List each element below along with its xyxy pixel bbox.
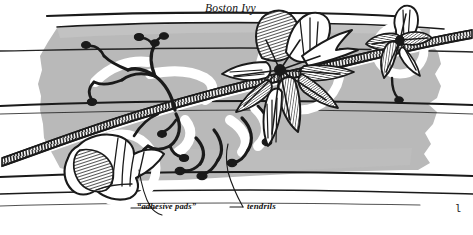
label-tendrils: tendrils — [247, 201, 276, 211]
label-adhesive-pads: “adhesive pads” — [137, 201, 196, 211]
body-text-block: l vie wher Thei — [417, 178, 473, 235]
figure-title: Boston Ivy — [205, 2, 256, 14]
illustration-page: Boston Ivy “adhesive pads” tendrils l vi… — [0, 0, 473, 235]
body-text-line-1: l — [417, 203, 473, 216]
boston-ivy-illustration — [0, 0, 473, 235]
